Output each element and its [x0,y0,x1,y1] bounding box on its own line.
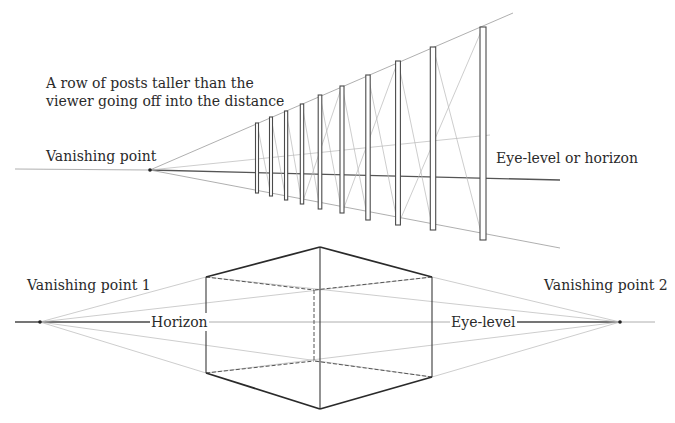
vanishing-point-1-label: Vanishing point 1 [27,276,151,294]
post [340,86,344,213]
post [480,27,486,240]
post [300,104,303,204]
vanishing-point-2-marker [618,320,622,324]
horizon-line-left [15,169,150,170]
post [270,117,273,196]
vanishing-point-1-marker [38,320,42,324]
one-point-perspective-drawing [15,13,560,248]
caption-line-1: A row of posts taller than the [46,74,254,92]
vanishing-point-label: Vanishing point [46,147,156,165]
post [430,47,435,230]
eye-level-or-horizon-label: Eye-level or horizon [496,149,638,167]
eye-level-label: Eye-level [450,313,517,331]
bottom-convergence-line [150,170,560,248]
box-hidden-edges [206,277,432,377]
two-point-perspective-drawing [15,247,655,409]
post [285,111,288,200]
post [396,61,401,225]
post [318,95,322,209]
box-visible-edges [206,247,432,409]
horizon-label: Horizon [150,313,209,331]
post [256,123,259,193]
caption-line-2: viewer going off into the distance [46,92,284,110]
vanishing-point-2-label: Vanishing point 2 [544,276,668,294]
post [366,75,370,220]
perspective-diagram [0,0,675,423]
vanishing-point-marker [148,168,152,172]
